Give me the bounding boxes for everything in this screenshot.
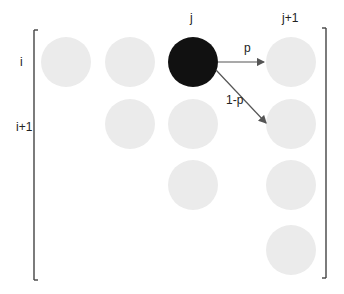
lattice-node bbox=[105, 37, 155, 87]
lattice-node bbox=[266, 37, 316, 87]
lattice-node bbox=[105, 99, 155, 149]
row-label-i: i bbox=[20, 56, 23, 68]
row-label-i-plus-1: i+1 bbox=[16, 121, 32, 133]
lattice-node bbox=[41, 37, 91, 87]
right-bracket bbox=[322, 28, 326, 278]
lattice-node bbox=[168, 99, 218, 149]
lattice-node bbox=[266, 99, 316, 149]
col-label-j-plus-1: j+1 bbox=[282, 12, 298, 24]
lattice-diagram bbox=[0, 0, 344, 294]
lattice-node bbox=[266, 160, 316, 210]
left-bracket bbox=[34, 30, 38, 280]
col-label-j: j bbox=[190, 12, 193, 24]
edge-label-p: p bbox=[244, 42, 251, 54]
lattice-node bbox=[266, 225, 316, 275]
edge-label-1-minus-p: 1-p bbox=[226, 94, 243, 106]
active-node bbox=[168, 37, 218, 87]
node-group bbox=[41, 37, 316, 275]
lattice-node bbox=[168, 160, 218, 210]
